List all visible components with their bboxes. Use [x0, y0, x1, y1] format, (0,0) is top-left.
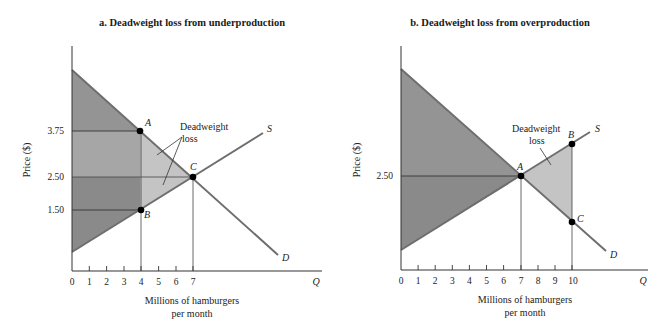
svg-text:3: 3 — [122, 277, 127, 287]
svg-text:4: 4 — [467, 276, 472, 286]
svg-text:9: 9 — [553, 276, 558, 286]
panel-b-title: b. Deadweight loss from overproduction — [410, 17, 590, 28]
annotation-line2: loss — [529, 135, 545, 146]
point-b — [569, 141, 576, 148]
panel-a-title: a. Deadweight loss from underproduction — [99, 17, 285, 28]
producer-surplus-area — [72, 177, 140, 252]
annotation-line2: loss — [182, 133, 198, 144]
point-c — [190, 174, 197, 181]
svg-text:5: 5 — [484, 276, 489, 286]
y-tick-labels: 3.75 2.50 1.50 — [47, 126, 64, 215]
panel-b: b. Deadweight loss from overproduction — [351, 17, 648, 318]
y-axis-label: Price ($) — [351, 143, 363, 178]
svg-text:7: 7 — [519, 276, 524, 286]
y-tick-labels: 2.50 — [376, 171, 393, 181]
point-a — [137, 128, 144, 135]
svg-text:1.50: 1.50 — [47, 205, 64, 215]
svg-text:3: 3 — [450, 276, 455, 286]
demand-label: D — [281, 252, 290, 263]
svg-text:0: 0 — [399, 276, 404, 286]
svg-text:3.75: 3.75 — [47, 126, 64, 136]
point-a-label: A — [516, 161, 524, 172]
panel-a: a. Deadweight loss from underproduction — [21, 17, 322, 319]
x-axis-label-line1: Millions of hamburgers — [145, 295, 239, 306]
y-axis-label: Price ($) — [21, 143, 33, 178]
point-a — [518, 173, 525, 180]
svg-text:2.50: 2.50 — [47, 172, 64, 182]
svg-text:10: 10 — [568, 276, 578, 286]
x-ticks — [418, 265, 572, 270]
x-axis-label-line1: Millions of hamburgers — [478, 294, 572, 305]
demand-label: D — [609, 249, 618, 260]
point-c-label: C — [577, 213, 584, 224]
x-tick-labels: 0 1 2 3 4 5 6 7 8 9 10 — [399, 276, 578, 286]
svg-text:2: 2 — [104, 277, 109, 287]
x-axis-label-line2: per month — [172, 308, 213, 319]
svg-text:2: 2 — [433, 276, 438, 286]
q-axis-label: Q — [639, 275, 647, 286]
annotation-line1: Deadweight — [512, 123, 561, 134]
svg-text:4: 4 — [139, 277, 144, 287]
svg-text:7: 7 — [191, 277, 196, 287]
point-a-label: A — [144, 117, 152, 128]
svg-text:5: 5 — [156, 277, 161, 287]
supply-label: S — [267, 123, 272, 134]
x-tick-labels: 0 1 2 3 4 5 6 7 — [70, 277, 196, 287]
point-b-label: B — [568, 129, 574, 140]
x-ticks — [89, 266, 193, 271]
x-axis-label-line2: per month — [505, 307, 546, 318]
point-c — [569, 219, 576, 226]
svg-text:0: 0 — [70, 277, 75, 287]
svg-text:1: 1 — [416, 276, 421, 286]
figure: a. Deadweight loss from underproduction — [0, 0, 669, 333]
svg-text:6: 6 — [174, 277, 179, 287]
svg-text:2.50: 2.50 — [376, 171, 393, 181]
point-c-label: C — [190, 161, 197, 172]
supply-label: S — [595, 123, 600, 134]
svg-text:6: 6 — [501, 276, 506, 286]
svg-text:1: 1 — [87, 277, 92, 287]
svg-text:8: 8 — [536, 276, 541, 286]
annotation-line1: Deadweight — [180, 121, 229, 132]
point-b-label: B — [144, 209, 150, 220]
q-axis-label: Q — [312, 276, 320, 287]
